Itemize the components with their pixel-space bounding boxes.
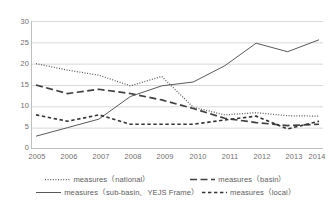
chart-legend: measures（national） measures（basin） measu… bbox=[0, 170, 332, 204]
line-chart: 30 25 20 15 10 5 0 2005 2006 2007 2008 2… bbox=[0, 0, 332, 212]
gridlines bbox=[31, 22, 323, 150]
legend-label: measures（basin） bbox=[218, 175, 286, 184]
legend-label: measures（national） bbox=[73, 175, 150, 184]
legend-item-basin[interactable]: measures（basin） bbox=[190, 175, 286, 184]
plot-svg bbox=[31, 21, 323, 149]
x-tick-label: 2008 bbox=[118, 152, 148, 161]
series-line-3 bbox=[36, 115, 319, 129]
y-tick-label: 30 bbox=[5, 18, 29, 26]
x-axis: 2005 2006 2007 2008 2009 2010 2011 2012 … bbox=[31, 152, 323, 164]
legend-swatch-short-dash-icon bbox=[202, 188, 227, 196]
legend-swatch-long-dash-icon bbox=[190, 175, 215, 183]
series-lines bbox=[36, 40, 319, 136]
legend-label: measures（sub-basin、YEJS Frame） bbox=[64, 188, 199, 197]
x-tick-label: 2010 bbox=[183, 152, 213, 161]
y-tick-label: 15 bbox=[5, 81, 29, 89]
plot-area bbox=[31, 21, 323, 149]
y-tick-label: 25 bbox=[5, 39, 29, 47]
x-tick-label: 2007 bbox=[86, 152, 116, 161]
legend-item-local[interactable]: measures（local） bbox=[202, 188, 296, 197]
legend-item-national[interactable]: measures（national） bbox=[45, 175, 150, 184]
legend-item-sub-basin[interactable]: measures（sub-basin、YEJS Frame） bbox=[36, 188, 199, 197]
legend-row: measures（national） measures（basin） bbox=[0, 172, 332, 186]
series-line-2 bbox=[36, 40, 319, 136]
x-tick-label: 2014 bbox=[302, 152, 332, 161]
series-line-0 bbox=[36, 64, 319, 116]
legend-row: measures（sub-basin、YEJS Frame） measures（… bbox=[0, 185, 332, 199]
y-tick-label: 5 bbox=[5, 123, 29, 131]
y-tick-label: 0 bbox=[5, 144, 29, 152]
y-tick-label: 10 bbox=[5, 102, 29, 110]
legend-swatch-solid-icon bbox=[36, 188, 61, 196]
x-tick-label: 2009 bbox=[150, 152, 180, 161]
x-tick-label: 2012 bbox=[247, 152, 277, 161]
legend-swatch-dotted-icon bbox=[45, 175, 70, 183]
legend-label: measures（local） bbox=[230, 188, 296, 197]
x-tick-label: 2005 bbox=[22, 152, 52, 161]
x-tick-label: 2006 bbox=[54, 152, 84, 161]
y-tick-label: 20 bbox=[5, 60, 29, 68]
x-tick-label: 2011 bbox=[215, 152, 245, 161]
